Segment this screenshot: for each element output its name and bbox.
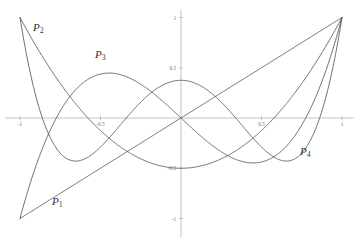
curve-label-base: P [52,195,59,207]
curve-label-p2: P2 [33,22,43,33]
curve-label-p1: P1 [52,196,62,207]
y-tick-label: -1 [172,216,177,222]
curve-label-base: P [300,145,307,157]
x-tick-label: -1 [18,121,23,127]
x-tick-label: -0.5 [96,121,105,127]
y-tick-label: 0.5 [170,65,177,71]
x-tick-label: 0.5 [258,121,265,127]
curve-label-base: P [33,21,40,33]
x-tick-label: 1 [341,121,344,127]
curve-label-subscript: 2 [40,27,44,35]
y-tick-label: 1 [173,15,176,21]
curve-label-subscript: 1 [59,201,63,209]
y-tick-label: -0.5 [168,165,177,171]
curve-label-subscript: 3 [102,54,106,62]
curve-label-p3: P3 [95,49,105,60]
curve-label-subscript: 4 [307,151,311,159]
curve-label-base: P [95,48,102,60]
legendre-polynomial-plot: -1-0.50.5110.5-0.5-1 P1 P2 P3 P4 [0,0,360,237]
curve-label-p4: P4 [300,146,310,157]
